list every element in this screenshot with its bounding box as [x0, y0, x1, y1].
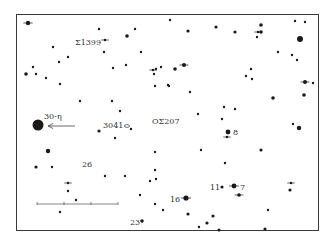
star — [256, 36, 258, 38]
star — [189, 91, 191, 93]
star — [234, 108, 236, 110]
star — [154, 151, 156, 153]
star — [186, 212, 189, 215]
star — [259, 30, 263, 34]
star — [139, 194, 141, 196]
star — [67, 190, 69, 192]
star — [173, 67, 177, 71]
star-label: 3041 — [103, 122, 123, 130]
star — [112, 67, 114, 69]
star — [312, 82, 314, 84]
star — [51, 166, 53, 168]
star — [140, 51, 142, 53]
star — [267, 209, 269, 211]
star — [214, 25, 217, 28]
star — [114, 137, 116, 139]
direction-arrow — [48, 124, 75, 129]
star — [35, 73, 37, 75]
star — [153, 73, 155, 75]
star — [205, 221, 208, 224]
star — [221, 118, 223, 120]
star — [59, 83, 61, 85]
star — [34, 165, 37, 168]
galaxy-icon — [124, 125, 129, 128]
star — [155, 68, 157, 70]
star-label: 16 — [170, 196, 180, 204]
star — [169, 19, 171, 21]
star — [292, 123, 294, 125]
star — [233, 30, 236, 33]
star — [263, 227, 266, 230]
star — [259, 148, 262, 151]
star — [211, 214, 214, 217]
star-label: 26 — [82, 161, 92, 169]
star — [291, 54, 293, 56]
star — [155, 178, 157, 180]
star-label: 30-η — [44, 113, 62, 121]
star — [119, 110, 121, 112]
star — [162, 209, 164, 211]
star-label: ΟΣ207 — [152, 118, 179, 126]
star-label: Σ1399 — [75, 39, 101, 47]
star — [250, 68, 252, 70]
star — [75, 199, 77, 201]
star — [130, 128, 132, 130]
star — [220, 185, 223, 188]
star — [140, 219, 144, 223]
star — [200, 149, 202, 151]
star — [251, 78, 253, 80]
star — [259, 23, 263, 27]
star — [304, 21, 306, 23]
star — [103, 51, 105, 53]
star — [271, 96, 275, 100]
star — [59, 211, 61, 213]
star — [223, 106, 225, 108]
star-label: 7 — [240, 184, 245, 192]
star — [294, 20, 296, 22]
star — [98, 28, 100, 30]
star — [186, 29, 189, 32]
star — [160, 66, 162, 68]
star — [277, 51, 279, 53]
star — [245, 75, 247, 77]
scale-bar — [37, 202, 118, 205]
star — [58, 61, 60, 63]
star — [124, 175, 126, 177]
star — [67, 56, 69, 58]
star — [79, 100, 81, 102]
star — [97, 129, 100, 132]
star — [217, 228, 220, 231]
star — [296, 59, 298, 61]
star — [154, 85, 156, 87]
star — [224, 162, 226, 164]
star — [32, 66, 34, 68]
star-label: 23 — [130, 219, 140, 227]
star — [198, 226, 200, 228]
star — [197, 113, 199, 115]
star — [134, 28, 136, 30]
star — [302, 93, 306, 97]
star — [104, 175, 106, 177]
star — [149, 180, 151, 182]
star — [52, 46, 54, 48]
star — [125, 34, 129, 38]
star — [45, 77, 47, 79]
star — [46, 149, 50, 153]
star — [111, 100, 113, 102]
star — [297, 36, 303, 42]
star-label: 11 — [210, 184, 220, 192]
star — [167, 84, 169, 86]
star — [33, 120, 44, 131]
star — [154, 203, 156, 205]
star — [288, 188, 291, 191]
star — [125, 64, 127, 66]
star — [24, 72, 28, 76]
star — [297, 126, 301, 130]
star — [226, 130, 231, 135]
star — [154, 169, 156, 171]
star-label: 8 — [233, 129, 238, 137]
